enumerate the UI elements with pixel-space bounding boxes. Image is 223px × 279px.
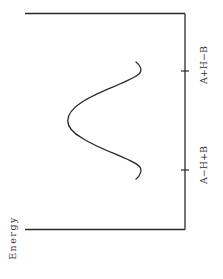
energy-diagram: A+H−B A−H+B Energy <box>0 0 223 279</box>
reactant-label: A−H+B <box>198 146 209 185</box>
energy-axis-label: Energy <box>7 216 18 260</box>
energy-barrier-curve <box>68 62 141 179</box>
product-label: A+H−B <box>198 46 209 85</box>
